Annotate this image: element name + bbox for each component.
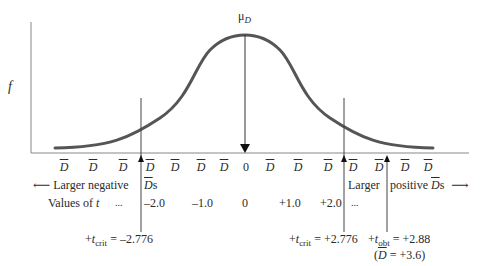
suffix-s: s [440,178,445,192]
plus-sign: + [289,232,296,246]
x-tick-15: D [424,160,433,175]
t-value-neg2: –2.0 [144,196,165,210]
x-tick-5: D [171,160,180,175]
d-bar-symbol: D [378,248,387,262]
values-of-t-label: Values of t [48,196,99,210]
t-value-zero: 0 [242,196,248,210]
distribution-diagram [0,0,491,266]
t-crit-negative-label: +tcrit = –2.776 [85,232,153,250]
t-crit-positive-value: = +2.776 [311,232,358,246]
larger-positive-label-2: positive Ds ⟶ [390,178,469,192]
left-arrow-icon: ⟵ [33,178,50,192]
t-value-ellipsis-left: ... [115,196,123,210]
x-tick-6: D [197,160,206,175]
t-value-pos2: +2.0 [320,196,342,210]
mu-subscript: D [244,15,251,25]
x-tick-11: D [324,160,333,175]
mean-arrowhead-icon [240,144,250,153]
mean-label: μD [238,9,251,27]
larger-negative-text: Larger negative [53,178,128,192]
d-bar-obtained-label: (D = +3.6) [374,248,425,262]
d-bar-obtained-value: = +3.6) [387,248,426,262]
d-bar-symbol: D [431,178,440,192]
normal-curve [55,35,433,148]
larger-negative-suffix: Ds [144,178,157,192]
x-tick-14: D [401,160,410,175]
critical-positive-arrowhead-icon [341,155,347,162]
critical-negative-arrowhead-icon [138,155,144,162]
x-tick-12: D [349,160,358,175]
plus-sign: + [368,232,375,246]
x-tick-4: D [146,160,155,175]
x-tick-10: D [294,160,303,175]
larger-negative-label: ⟵ Larger negative [33,178,129,192]
obt-subscript: obt [378,238,390,248]
y-axis-label: f [8,80,12,94]
x-tick-2: D [89,160,98,175]
plus-sign: + [85,232,92,246]
x-tick-13: D [375,160,384,175]
t-symbol: t [96,196,99,210]
t-obtained-value: = +2.88 [390,232,431,246]
x-tick-3: D [119,160,128,175]
t-value-pos1: +1.0 [279,196,301,210]
crit-subscript: crit [95,238,107,248]
suffix-s: s [153,178,158,192]
x-tick-1: D [60,160,69,175]
x-tick-7: D [220,160,229,175]
positive-text: positive [390,178,428,192]
t-crit-positive-label: +tcrit = +2.776 [289,232,358,250]
right-arrow-icon: ⟶ [451,178,468,192]
values-of-text: Values of [48,196,93,210]
larger-positive-label-1: Larger [348,178,380,192]
t-obtained-arrowhead-icon [384,155,390,162]
x-tick-zero: 0 [243,160,249,175]
crit-subscript: crit [299,238,311,248]
t-crit-negative-value: = –2.776 [107,232,153,246]
x-tick-9: D [266,160,275,175]
d-bar-symbol: D [144,178,153,192]
t-value-neg1: –1.0 [192,196,213,210]
t-value-ellipsis-right: ... [351,196,359,210]
